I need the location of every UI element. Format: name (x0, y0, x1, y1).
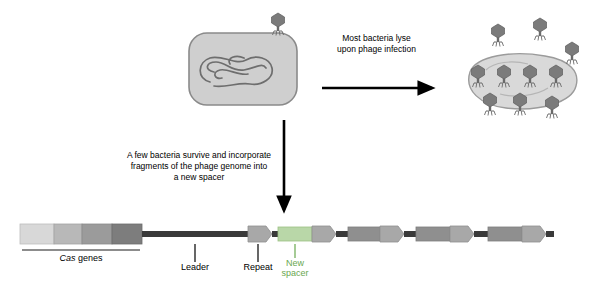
callout-survive: A few bacteria survive and incorporate f… (104, 150, 294, 183)
infected-bacterium (189, 33, 297, 105)
label-cas-genes: Cas genes (41, 253, 121, 263)
callout-lysis: Most bacteria lyse upon phage infection (329, 33, 424, 55)
label-cas-rest: genes (75, 253, 102, 263)
callout-survive-line3: a new spacer (104, 172, 294, 183)
label-new-spacer-line1: New (272, 258, 318, 268)
label-leader: Leader (170, 262, 220, 272)
phage-icon-attacking (272, 13, 285, 36)
label-new-spacer: New spacer (272, 258, 318, 278)
callout-lysis-line2: upon phage infection (329, 44, 424, 55)
callout-survive-line2: fragments of the phage genome into (104, 161, 294, 172)
callout-lysis-line1: Most bacteria lyse (329, 33, 424, 44)
label-new-spacer-line2: spacer (272, 268, 318, 278)
callout-survive-line1: A few bacteria survive and incorporate (104, 150, 294, 161)
label-cas-italic: Cas (59, 253, 75, 263)
diagram-canvas: Most bacteria lyse upon phage infection … (0, 0, 594, 299)
